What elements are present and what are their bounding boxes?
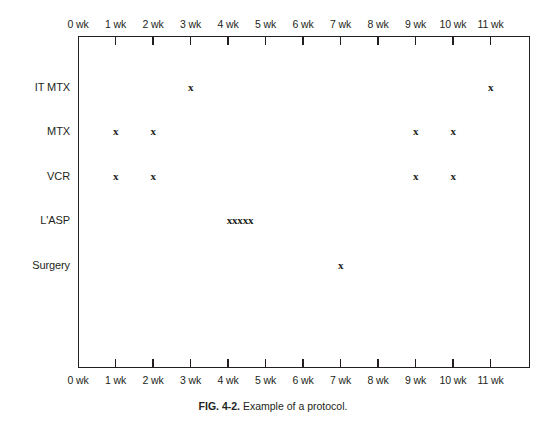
axis-label-bottom-week-5: 5 wk xyxy=(255,374,276,386)
axis-label-bottom-week-10: 10 wk xyxy=(440,374,467,386)
plot-frame xyxy=(78,36,530,368)
axis-tick-bottom-week-11 xyxy=(490,359,492,368)
row-label-it-mtx: IT MTX xyxy=(35,81,70,93)
marker-mtx-week-1: x xyxy=(113,125,118,137)
axis-tick-bottom-week-1 xyxy=(115,359,117,368)
axis-tick-bottom-week-10 xyxy=(452,359,454,368)
axis-tick-bottom-week-5 xyxy=(265,359,267,368)
axis-label-top-week-3: 3 wk xyxy=(180,18,201,30)
axis-tick-top-week-7 xyxy=(340,36,342,45)
marker-it-mtx-week-11: x xyxy=(488,81,493,93)
axis-label-bottom-week-6: 6 wk xyxy=(292,374,313,386)
axis-tick-bottom-week-2 xyxy=(152,359,154,368)
axis-label-top-week-1: 1 wk xyxy=(105,18,126,30)
axis-label-top-week-6: 6 wk xyxy=(292,18,313,30)
marker-vcr-week-2: x xyxy=(150,170,155,182)
axis-label-top-week-11: 11 wk xyxy=(477,18,503,30)
marker-l-asp-week-4: xxxxx xyxy=(227,214,254,226)
marker-mtx-week-10: x xyxy=(450,125,455,137)
axis-tick-bottom-week-7 xyxy=(340,359,342,368)
caption-description: Example of a protocol. xyxy=(243,400,347,412)
marker-it-mtx-week-3: x xyxy=(188,81,193,93)
axis-tick-top-week-3 xyxy=(190,36,192,45)
axis-tick-bottom-week-4 xyxy=(227,359,229,368)
marker-mtx-week-2: x xyxy=(150,125,155,137)
axis-label-top-week-2: 2 wk xyxy=(142,18,163,30)
marker-surgery-week-7: x xyxy=(338,259,343,271)
axis-label-bottom-week-8: 8 wk xyxy=(367,374,388,386)
axis-tick-top-week-4 xyxy=(227,36,229,45)
axis-tick-top-week-9 xyxy=(415,36,417,45)
marker-mtx-week-9: x xyxy=(413,125,418,137)
axis-label-top-week-7: 7 wk xyxy=(330,18,351,30)
axis-tick-bottom-week-8 xyxy=(377,359,379,368)
axis-label-bottom-week-1: 1 wk xyxy=(105,374,126,386)
marker-vcr-week-9: x xyxy=(413,170,418,182)
axis-label-bottom-week-7: 7 wk xyxy=(330,374,351,386)
axis-tick-top-week-5 xyxy=(265,36,267,45)
axis-tick-top-week-1 xyxy=(115,36,117,45)
marker-vcr-week-10: x xyxy=(450,170,455,182)
axis-tick-top-week-10 xyxy=(452,36,454,45)
axis-label-bottom-week-0: 0 wk xyxy=(67,374,88,386)
axis-tick-bottom-week-6 xyxy=(302,359,304,368)
row-label-mtx: MTX xyxy=(47,125,70,137)
axis-label-top-week-0: 0 wk xyxy=(67,18,88,30)
axis-label-bottom-week-9: 9 wk xyxy=(405,374,426,386)
row-label-l-asp: L'ASP xyxy=(40,214,70,226)
axis-label-bottom-week-3: 3 wk xyxy=(180,374,201,386)
protocol-timeline-figure: 0 wk1 wk2 wk3 wk4 wk5 wk6 wk7 wk8 wk9 wk… xyxy=(0,0,546,426)
axis-tick-top-week-2 xyxy=(152,36,154,45)
axis-label-top-week-9: 9 wk xyxy=(405,18,426,30)
axis-label-top-week-8: 8 wk xyxy=(367,18,388,30)
axis-tick-top-week-8 xyxy=(377,36,379,45)
figure-caption: FIG. 4-2. Example of a protocol. xyxy=(0,400,546,412)
caption-figure-number: FIG. 4-2. xyxy=(199,400,240,412)
axis-label-top-week-4: 4 wk xyxy=(217,18,238,30)
axis-tick-bottom-week-9 xyxy=(415,359,417,368)
axis-label-top-week-10: 10 wk xyxy=(440,18,467,30)
row-label-surgery: Surgery xyxy=(32,259,70,271)
axis-tick-top-week-11 xyxy=(490,36,492,45)
axis-label-bottom-week-11: 11 wk xyxy=(477,374,503,386)
row-label-vcr: VCR xyxy=(47,170,70,182)
axis-label-bottom-week-4: 4 wk xyxy=(217,374,238,386)
axis-label-top-week-5: 5 wk xyxy=(255,18,276,30)
axis-label-bottom-week-2: 2 wk xyxy=(142,374,163,386)
axis-tick-bottom-week-3 xyxy=(190,359,192,368)
marker-vcr-week-1: x xyxy=(113,170,118,182)
axis-tick-top-week-6 xyxy=(302,36,304,45)
